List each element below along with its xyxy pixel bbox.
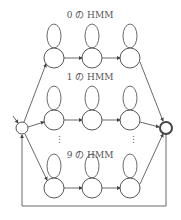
state-0-3 [120, 48, 140, 68]
state-9-3 [120, 178, 140, 198]
ellipsis-right: ⋮ [129, 135, 138, 145]
hmm-row-9 [44, 154, 140, 198]
model-label-9: 9 の HMM [67, 150, 114, 160]
state-0-1 [44, 48, 64, 68]
end-node [160, 122, 172, 134]
hmm-diagram: 0 の HMM 1 の HMM 9 の HMM ⋮ ⋮ [0, 0, 181, 220]
state-9-1 [44, 178, 64, 198]
ellipsis-left: ⋮ [55, 135, 64, 145]
state-0-2 [82, 48, 102, 68]
state-9-2 [82, 178, 102, 198]
hmm-row-1 [44, 86, 140, 130]
state-1-3 [120, 110, 140, 130]
state-1-1 [44, 110, 64, 130]
model-label-0: 0 の HMM [67, 10, 114, 20]
state-1-2 [82, 110, 102, 130]
start-node [16, 122, 28, 134]
model-label-1: 1 の HMM [67, 72, 114, 82]
hmm-row-0 [44, 24, 140, 68]
